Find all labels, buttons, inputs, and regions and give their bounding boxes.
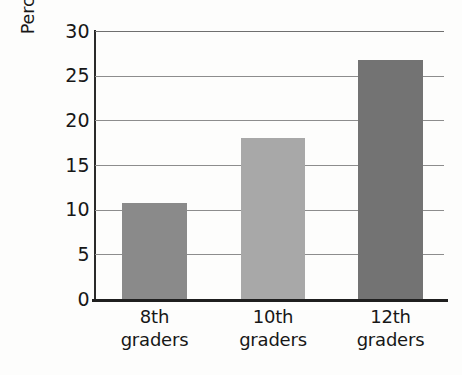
category-label-line1: 8th xyxy=(95,306,215,329)
category-label-line1: 12th xyxy=(331,306,451,329)
y-tick-label-30: 30 xyxy=(46,22,90,41)
y-axis-tick-labels: 302520151050 xyxy=(44,0,90,375)
bar-10th-graders[interactable] xyxy=(241,138,305,299)
bar-8th-graders[interactable] xyxy=(122,203,187,299)
x-axis-line xyxy=(92,299,448,302)
y-tick-label-5: 5 xyxy=(46,245,90,264)
y-tick-label-20: 20 xyxy=(46,111,90,130)
plot-area xyxy=(95,31,444,299)
category-label-line2: graders xyxy=(331,329,451,352)
category-label-10th-graders: 10thgraders xyxy=(213,306,333,352)
category-label-8th-graders: 8thgraders xyxy=(95,306,215,352)
y-axis-title: Percentage smoking regularly xyxy=(13,0,43,48)
category-label-line1: 10th xyxy=(213,306,333,329)
category-label-line2: graders xyxy=(213,329,333,352)
y-tick-label-15: 15 xyxy=(46,156,90,175)
bar-chart: Percentage smoking regularly 30252015105… xyxy=(0,0,462,375)
y-tick-label-25: 25 xyxy=(46,66,90,85)
bar-12th-graders[interactable] xyxy=(358,60,423,299)
y-tick-label-10: 10 xyxy=(46,200,90,219)
gridline-30 xyxy=(95,31,444,32)
category-label-line2: graders xyxy=(95,329,215,352)
category-label-12th-graders: 12thgraders xyxy=(331,306,451,352)
y-tick-label-0: 0 xyxy=(46,290,90,309)
